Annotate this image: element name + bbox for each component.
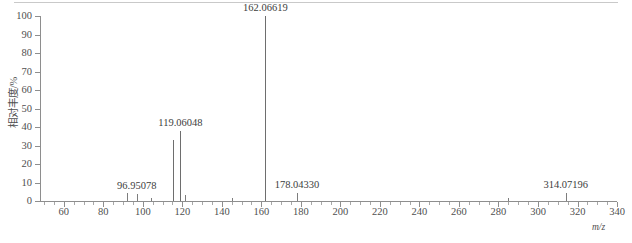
x-axis-minor-tick (489, 202, 490, 205)
y-axis-tick (35, 109, 40, 110)
peak-label: 314.07196 (524, 179, 608, 191)
x-axis-tick-label: 140 (202, 206, 242, 218)
x-axis-minor-tick (113, 202, 114, 205)
x-axis-minor-tick (54, 202, 55, 205)
x-axis-tick-label: 260 (439, 206, 479, 218)
x-axis-tick-label: 320 (558, 206, 598, 218)
x-axis-minor-tick (360, 202, 361, 205)
peak-label: 96.95078 (95, 180, 179, 192)
y-axis-tick (35, 35, 40, 36)
x-axis-minor-tick (271, 202, 272, 205)
spectrum-peak (265, 16, 266, 201)
y-axis-tick (35, 183, 40, 184)
spectrum-peak (151, 198, 152, 201)
spectrum-peak (173, 140, 174, 201)
x-axis-minor-tick (568, 202, 569, 205)
x-axis-minor-tick (311, 202, 312, 205)
y-axis-tick (35, 16, 40, 17)
x-axis-tick-label: 120 (162, 206, 202, 218)
y-axis-tick-label: 30 (8, 140, 32, 151)
y-axis-line (40, 16, 41, 202)
x-axis-minor-tick (242, 202, 243, 205)
x-axis-minor-tick (528, 202, 529, 205)
x-axis-minor-tick (479, 202, 480, 205)
x-axis-minor-tick (548, 202, 549, 205)
y-axis-tick-label: 100 (8, 10, 32, 21)
x-axis-minor-tick (321, 202, 322, 205)
x-axis-minor-tick (350, 202, 351, 205)
x-axis-tick-label: 200 (320, 206, 360, 218)
y-axis-tick-label: 90 (8, 29, 32, 40)
x-axis-minor-tick (172, 202, 173, 205)
x-axis-minor-tick (93, 202, 94, 205)
x-axis-tick-label: 240 (399, 206, 439, 218)
spectrum-peak (185, 195, 186, 201)
x-axis-tick-label: 80 (83, 206, 123, 218)
x-axis-minor-tick (74, 202, 75, 205)
spectrum-peak (137, 194, 138, 201)
peak-label: 162.06619 (223, 2, 307, 14)
x-axis-minor-tick (133, 202, 134, 205)
x-axis-tick-label: 340 (597, 206, 632, 218)
x-axis-tick-label: 100 (123, 206, 163, 218)
y-axis-tick (35, 72, 40, 73)
peak-label: 119.06048 (138, 117, 222, 129)
x-axis-minor-tick (232, 202, 233, 205)
x-axis-minor-tick (587, 202, 588, 205)
spectrum-peak (566, 193, 567, 201)
y-axis-tick (35, 127, 40, 128)
spectrum-peak (232, 198, 233, 201)
x-axis-minor-tick (153, 202, 154, 205)
x-axis-minor-tick (291, 202, 292, 205)
y-axis-tick (35, 201, 40, 202)
x-axis-tick-label: 280 (478, 206, 518, 218)
spectrum-peak (180, 131, 181, 201)
x-axis-minor-tick (123, 202, 124, 205)
x-axis-title: m/z (592, 222, 605, 232)
peak-label: 178.04330 (255, 179, 339, 191)
x-axis-minor-tick (44, 202, 45, 205)
x-axis-minor-tick (202, 202, 203, 205)
y-axis-tick-label: 0 (8, 195, 32, 206)
x-axis-tick-label: 60 (44, 206, 84, 218)
x-axis-minor-tick (429, 202, 430, 205)
x-axis-minor-tick (163, 202, 164, 205)
y-axis-tick-label: 20 (8, 158, 32, 169)
y-axis-tick (35, 164, 40, 165)
x-axis-minor-tick (410, 202, 411, 205)
x-axis-minor-tick (192, 202, 193, 205)
x-axis-minor-tick (84, 202, 85, 205)
x-axis-tick-label: 300 (518, 206, 558, 218)
x-axis-minor-tick (390, 202, 391, 205)
y-axis-tick-label: 80 (8, 47, 32, 58)
x-axis-minor-tick (607, 202, 608, 205)
x-axis-minor-tick (370, 202, 371, 205)
y-axis-title: 相对丰度/% (5, 65, 20, 141)
y-axis-tick (35, 146, 40, 147)
plot-area: 6080100120140160180200220240260280300320… (0, 0, 632, 243)
x-axis-minor-tick (518, 202, 519, 205)
y-axis-tick-label: 10 (8, 177, 32, 188)
x-axis-tick-label: 160 (241, 206, 281, 218)
x-axis-minor-tick (281, 202, 282, 205)
x-axis-minor-tick (251, 202, 252, 205)
x-axis-tick-label: 180 (281, 206, 321, 218)
x-axis-minor-tick (469, 202, 470, 205)
x-axis-minor-tick (597, 202, 598, 205)
spectrum-peak (127, 193, 128, 201)
x-axis-minor-tick (439, 202, 440, 205)
x-axis-minor-tick (508, 202, 509, 205)
x-axis-minor-tick (558, 202, 559, 205)
x-axis-minor-tick (212, 202, 213, 205)
spectrum-peak (297, 193, 298, 201)
spectrum-peak (508, 198, 509, 201)
x-axis-minor-tick (331, 202, 332, 205)
x-axis-line (40, 201, 617, 202)
x-axis-minor-tick (400, 202, 401, 205)
y-axis-tick (35, 53, 40, 54)
y-axis-tick (35, 90, 40, 91)
mass-spectrum-figure: 6080100120140160180200220240260280300320… (0, 0, 632, 243)
x-axis-tick-label: 220 (360, 206, 400, 218)
x-axis-minor-tick (449, 202, 450, 205)
